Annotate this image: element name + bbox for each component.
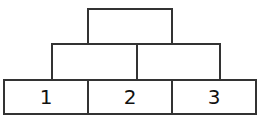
bottom-cell-1: 1 [3,79,89,115]
middle-cell-left [51,43,138,81]
top-cell [87,8,173,45]
bottom-cell-3: 3 [171,79,257,115]
bottom-cell-2: 2 [87,79,173,115]
middle-cell-right [136,43,221,81]
